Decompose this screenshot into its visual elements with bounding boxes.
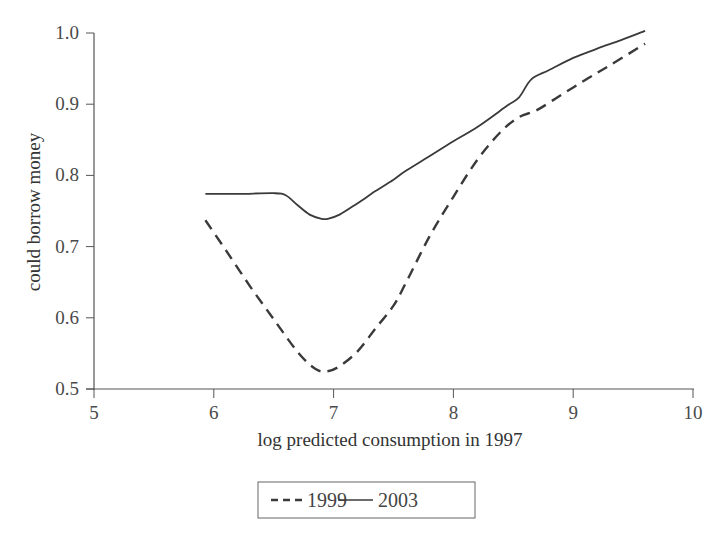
series-2003-line	[205, 31, 645, 219]
legend: 1999 2003	[258, 482, 475, 518]
y-tick-label: 0.5	[55, 378, 79, 399]
legend-label-2003: 2003	[378, 489, 418, 511]
x-tick-label: 8	[449, 402, 459, 423]
y-tick-label: 0.6	[55, 307, 79, 328]
x-axis-title: log predicted consumption in 1997	[258, 429, 523, 450]
x-tick-label: 7	[329, 402, 339, 423]
y-axis-ticks: 0.50.60.70.80.91.0	[55, 22, 94, 399]
series-1999-line	[205, 44, 645, 372]
y-tick-label: 0.9	[55, 93, 79, 114]
x-axis-ticks: 5678910	[89, 389, 702, 423]
x-tick-label: 9	[568, 402, 578, 423]
y-tick-label: 1.0	[55, 22, 79, 43]
x-tick-label: 5	[89, 402, 99, 423]
line-chart: 0.50.60.70.80.91.0 5678910 log predicted…	[0, 0, 718, 533]
x-tick-label: 6	[209, 402, 219, 423]
y-axis-title: could borrow money	[23, 132, 44, 291]
y-tick-label: 0.8	[55, 164, 79, 185]
y-tick-label: 0.7	[55, 236, 79, 257]
x-tick-label: 10	[684, 402, 703, 423]
